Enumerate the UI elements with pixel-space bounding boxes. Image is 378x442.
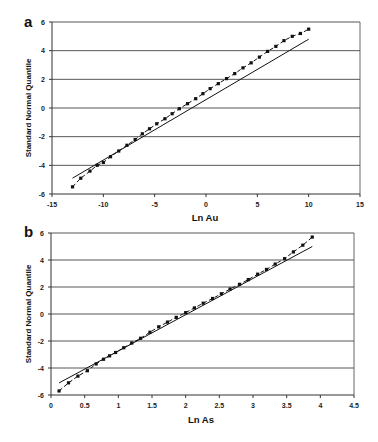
y-tick-label: 6 bbox=[40, 230, 44, 237]
data-point-marker bbox=[155, 122, 158, 125]
panel-a-y-tick-labels: -6-4-20246 bbox=[39, 19, 45, 198]
x-tick-label: -5 bbox=[152, 201, 158, 208]
x-tick-label: 10 bbox=[305, 201, 313, 208]
data-point-marker bbox=[266, 50, 269, 53]
x-tick-label: 2 bbox=[184, 402, 188, 409]
x-tick-label: 15 bbox=[356, 201, 364, 208]
x-tick-label: 4.5 bbox=[349, 402, 359, 409]
data-point-marker bbox=[186, 102, 189, 105]
panel-a-gridlines bbox=[49, 22, 360, 197]
data-point-marker bbox=[233, 72, 236, 75]
data-point-marker bbox=[148, 127, 151, 130]
data-point-marker bbox=[166, 321, 169, 324]
x-tick-label: 1 bbox=[116, 402, 120, 409]
data-point-marker bbox=[102, 161, 105, 164]
panel-a-x-tick-labels: -15-10-5051015 bbox=[47, 201, 364, 208]
y-tick-label: 4 bbox=[41, 47, 45, 54]
data-point-marker bbox=[241, 66, 244, 69]
data-point-marker bbox=[175, 316, 178, 319]
data-point-marker bbox=[274, 262, 277, 265]
data-point-marker bbox=[201, 92, 204, 95]
y-tick-label: -2 bbox=[38, 338, 44, 345]
panel-b-gridlines bbox=[48, 233, 354, 398]
panel-a-ln-au: a -6-4-20246 -15-10-5051015 Ln Au Standa… bbox=[24, 13, 364, 223]
panel-b-label: b bbox=[24, 223, 33, 240]
x-tick-label: 2.5 bbox=[214, 402, 224, 409]
data-point-marker bbox=[194, 97, 197, 100]
y-tick-label: -4 bbox=[38, 365, 44, 372]
x-tick-label: 3.5 bbox=[282, 402, 292, 409]
data-point-marker bbox=[171, 112, 174, 115]
fitted-line bbox=[73, 39, 309, 178]
data-point-marker bbox=[57, 389, 60, 392]
data-point-marker bbox=[209, 87, 212, 90]
y-tick-label: 0 bbox=[41, 105, 45, 112]
data-point-marker bbox=[141, 132, 144, 135]
data-point-marker bbox=[67, 381, 70, 384]
x-tick-label: 3 bbox=[251, 402, 255, 409]
data-point-marker bbox=[163, 117, 166, 120]
data-point-marker bbox=[250, 61, 253, 64]
y-tick-label: 0 bbox=[40, 311, 44, 318]
data-point-marker bbox=[291, 35, 294, 38]
fitted-line bbox=[59, 247, 312, 383]
y-tick-label: -2 bbox=[39, 133, 45, 140]
data-point-marker bbox=[88, 169, 91, 172]
y-tick-label: 4 bbox=[40, 257, 44, 264]
x-tick-label: 1.5 bbox=[147, 402, 157, 409]
x-tick-label: 4 bbox=[318, 402, 322, 409]
y-tick-label: -4 bbox=[39, 162, 45, 169]
qq-plots-figure: a -6-4-20246 -15-10-5051015 Ln Au Standa… bbox=[0, 0, 378, 442]
y-tick-label: 2 bbox=[40, 284, 44, 291]
x-tick-label: 0.5 bbox=[80, 402, 90, 409]
data-point-marker bbox=[307, 28, 310, 31]
data-point-marker bbox=[157, 325, 160, 328]
data-point-marker bbox=[292, 250, 295, 253]
data-point-marker bbox=[225, 77, 228, 80]
panel-b-y-axis-title: Standard Normal Quantile bbox=[24, 264, 33, 363]
data-point-marker bbox=[301, 244, 304, 247]
y-tick-label: -6 bbox=[38, 392, 44, 399]
x-tick-label: 5 bbox=[255, 201, 259, 208]
data-point-marker bbox=[283, 257, 286, 260]
data-point-marker bbox=[86, 369, 89, 372]
panel-b-y-tick-labels: -6-4-20246 bbox=[38, 230, 44, 399]
data-point-marker bbox=[79, 177, 82, 180]
data-point-marker bbox=[71, 185, 74, 188]
data-point-marker bbox=[76, 375, 79, 378]
y-tick-label: -6 bbox=[39, 191, 45, 198]
panel-b-ln-as: b -6-4-20246 00.511.522.533.544.5 Ln As … bbox=[24, 223, 359, 425]
x-tick-label: -10 bbox=[98, 201, 108, 208]
data-point-marker bbox=[258, 56, 261, 59]
data-point-marker bbox=[311, 235, 314, 238]
data-point-marker bbox=[178, 107, 181, 110]
panel-b-x-axis-title: Ln As bbox=[188, 414, 214, 425]
x-tick-label: -15 bbox=[47, 201, 57, 208]
panel-b-x-tick-labels: 00.511.522.533.544.5 bbox=[49, 402, 359, 409]
panel-a-y-axis-title: Standard Normal Quantile bbox=[24, 58, 33, 157]
data-point-marker bbox=[282, 39, 285, 42]
panel-a-x-axis-title: Ln Au bbox=[192, 212, 219, 223]
x-tick-label: 0 bbox=[49, 402, 53, 409]
data-point-marker bbox=[274, 45, 277, 48]
y-tick-label: 6 bbox=[41, 19, 45, 26]
data-point-marker bbox=[299, 32, 302, 35]
x-tick-label: 0 bbox=[204, 201, 208, 208]
y-tick-label: 2 bbox=[41, 76, 45, 83]
data-point-marker bbox=[217, 82, 220, 85]
panel-a-label: a bbox=[24, 13, 33, 30]
